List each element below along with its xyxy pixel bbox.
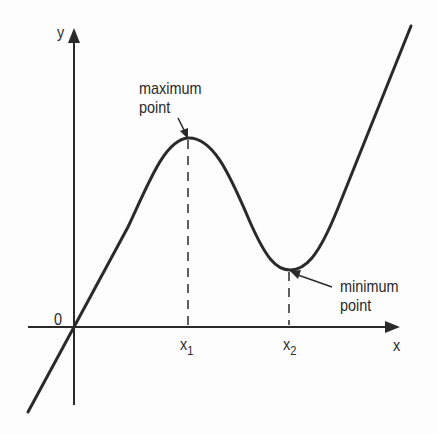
maximum-label-line1: maximum [139,80,202,98]
y-axis-label: y [57,24,64,42]
x-axis-arrow-icon [385,321,400,333]
minimum-pointer-line [298,275,332,287]
origin-label: 0 [54,311,62,329]
x2-base: x [283,335,290,354]
x1-base: x [180,335,187,354]
stationary-points-diagram: y x 0 x1 x2 maximum point minimum point [0,0,438,434]
function-curve [28,26,411,412]
minimum-label-line1: minimum [340,278,399,296]
maximum-label-line2: point [139,99,170,117]
x1-subscript: 1 [187,343,193,358]
x2-tick-label: x2 [283,336,296,355]
x-axis-label: x [393,337,400,355]
x2-subscript: 2 [290,343,296,358]
y-axis-arrow-icon [68,28,80,43]
diagram-canvas [0,0,438,434]
minimum-pointer-arrow-icon [290,270,301,279]
x1-tick-label: x1 [180,336,193,355]
minimum-label-line2: point [340,297,371,315]
